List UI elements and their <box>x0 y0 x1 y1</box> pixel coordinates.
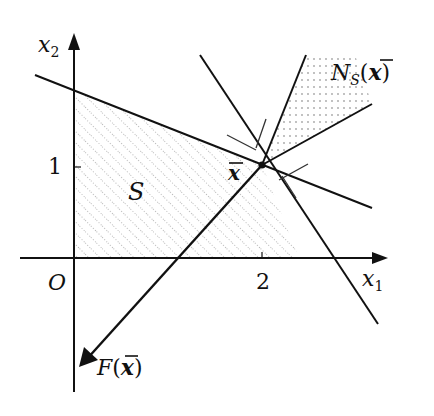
y-tick-label: 1 <box>48 154 62 179</box>
y-axis-arrow-icon <box>68 33 80 50</box>
normal-cone-label: NS(x) <box>330 59 393 88</box>
right-angle-mark-1b <box>256 119 266 148</box>
y-axis-label: x2 <box>38 32 59 60</box>
diagram-canvas: x2 x1 O 2 1 S x NS(x) F(x) <box>0 0 434 416</box>
svg-text:NS(x): NS(x) <box>330 59 390 88</box>
x-axis-label: x1 <box>362 266 383 294</box>
x-axis-arrow-icon <box>372 252 388 264</box>
svg-text:x: x <box>227 161 241 185</box>
svg-text:F(x): F(x) <box>96 354 143 380</box>
origin-label: O <box>48 270 66 295</box>
feasible-set-region <box>74 90 299 258</box>
field-label: F(x) <box>96 354 143 380</box>
point-x-bar <box>258 161 265 168</box>
right-angle-mark-2b <box>282 176 296 198</box>
set-label: S <box>128 178 144 206</box>
x-tick-label: 2 <box>256 269 270 294</box>
right-angle-mark-1a <box>227 135 256 150</box>
